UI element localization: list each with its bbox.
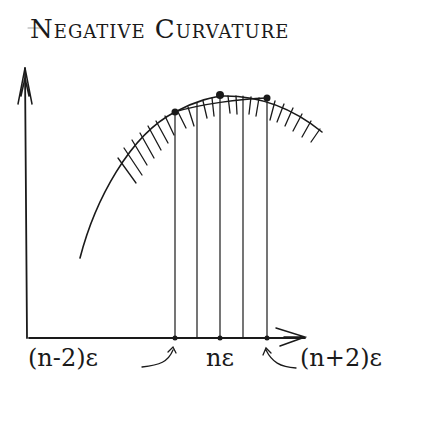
left-label-arrow-icon [142,347,176,367]
point-n-plus-2 [264,95,271,102]
y-axis [25,68,27,338]
point-n-minus-2 [172,109,179,116]
label-n-minus-2-epsilon: (n-2)ε [28,344,98,372]
point-n [216,91,224,99]
label-n-plus-2-epsilon: (n+2)ε [300,344,382,372]
label-n-epsilon: nε [206,344,234,372]
right-label-arrow-icon [263,348,296,368]
concave-curve [80,96,322,258]
